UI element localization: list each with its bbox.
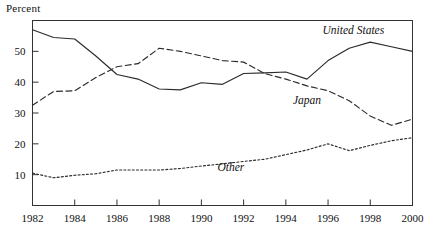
y-tick-label: 50 [15,45,27,57]
y-tick-label: 40 [15,76,27,88]
x-tick-label: 1990 [190,212,213,224]
x-tick-label: 1998 [359,212,382,224]
x-tick-label: 1986 [106,212,129,224]
series-lines [33,30,413,178]
plot-frame [33,21,413,206]
series-label-united-states: United States [323,24,385,36]
series-annotations: United StatesJapanOther [218,24,385,173]
x-tick-label: 1996 [317,212,340,224]
y-axis-tick-labels: 1020304050 [15,45,27,180]
x-axis-tick-labels: 1982198419861988199019921994199619982000 [22,212,425,224]
line-chart-plot: 1020304050 19821984198619881990199219941… [0,0,425,241]
series-label-other: Other [218,161,245,173]
x-tick-label: 2000 [402,212,425,224]
x-axis-ticks [33,200,413,206]
x-tick-label: 1988 [148,212,171,224]
y-tick-label: 10 [15,169,27,181]
x-tick-label: 1984 [64,212,87,224]
x-tick-label: 1982 [22,212,44,224]
series-label-japan: Japan [293,94,321,107]
y-axis-ticks [33,51,39,174]
x-tick-label: 1994 [275,212,298,224]
series-line-united-states [33,30,413,90]
y-tick-label: 30 [15,107,27,119]
x-tick-label: 1992 [233,212,255,224]
chart-container: Percent 1020304050 198219841986198819901… [0,0,425,241]
y-tick-label: 20 [15,138,27,150]
series-line-japan [33,48,413,125]
